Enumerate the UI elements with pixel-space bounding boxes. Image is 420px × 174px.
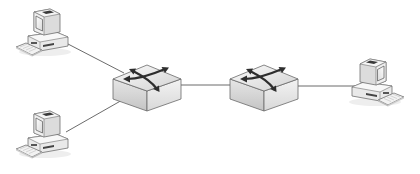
desktop-computer-icon (16, 9, 71, 57)
link-pc-bottom-left-switch-1 (66, 99, 124, 132)
links (66, 44, 360, 132)
network-switch-icon (113, 65, 181, 111)
network-switch-icon (230, 65, 298, 111)
desktop-computer-icon (16, 111, 71, 159)
switch-2[interactable] (230, 65, 298, 111)
switch-1[interactable] (113, 65, 181, 111)
pc-top-left[interactable] (16, 9, 71, 57)
pc-bottom-left[interactable] (16, 111, 71, 159)
link-pc-top-left-switch-1 (68, 44, 124, 73)
network-diagram (0, 0, 420, 174)
pc-right[interactable] (349, 59, 404, 107)
desktop-computer-icon (349, 59, 404, 107)
